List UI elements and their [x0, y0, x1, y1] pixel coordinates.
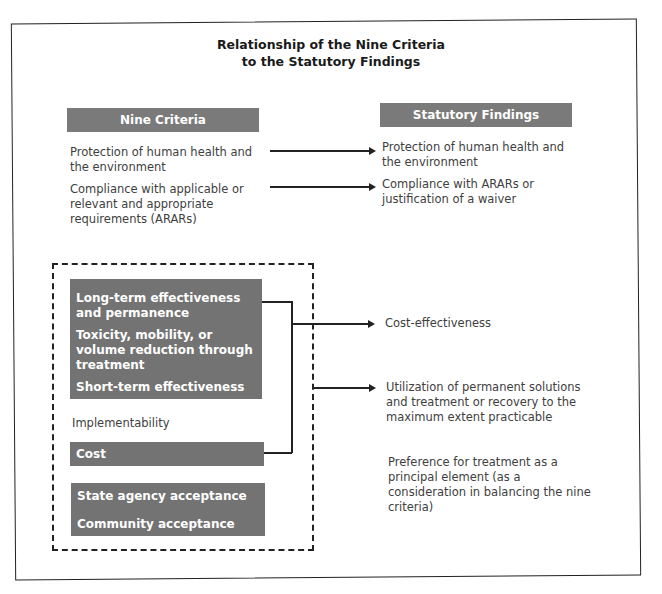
title-line-2: to the Statutory Findings [0, 53, 662, 70]
criterion-toxicity: Toxicity, mobility, or volume reduction … [70, 328, 262, 373]
criterion-implementability: Implementability [72, 416, 170, 431]
finding-protection: Protection of human health and the envir… [382, 140, 572, 170]
arrowhead-icon [369, 183, 376, 191]
statutory-findings-header: Statutory Findings [380, 103, 572, 127]
arrowhead-icon [369, 384, 376, 392]
criterion-cost: Cost [70, 442, 264, 466]
criterion-long-term: Long-term effectiveness and permanence [70, 291, 262, 321]
balancing-criteria-box: Long-term effectiveness and permanence T… [70, 279, 262, 399]
connector-bottom [264, 452, 292, 454]
modifying-criteria-box: State agency acceptance Community accept… [71, 483, 265, 536]
title-line-1: Relationship of the Nine Criteria [0, 36, 662, 53]
nine-criteria-header: Nine Criteria [67, 108, 259, 132]
finding-utilization: Utilization of permanent solutions and t… [386, 380, 586, 425]
finding-compliance: Compliance with ARARs or justification o… [382, 177, 562, 207]
arrow-line-cost-effectiveness [291, 323, 369, 325]
diagram-title: Relationship of the Nine Criteria to the… [0, 36, 662, 70]
criterion-community-acceptance: Community acceptance [71, 517, 265, 532]
criterion-short-term: Short-term effectiveness [70, 380, 262, 395]
connector-top [262, 301, 292, 303]
finding-cost-effectiveness: Cost-effectiveness [385, 316, 491, 331]
arrow-line-utilization [312, 387, 370, 389]
arrowhead-icon [368, 320, 375, 328]
finding-preference: Preference for treatment as a principal … [388, 455, 593, 515]
criterion-protection: Protection of human health and the envir… [70, 145, 260, 175]
criterion-compliance: Compliance with applicable or relevant a… [70, 182, 250, 227]
arrowhead-icon [369, 147, 376, 155]
arrow-line-protection [270, 150, 370, 152]
arrow-line-compliance [270, 186, 370, 188]
criterion-state-acceptance: State agency acceptance [71, 489, 265, 504]
cost-box: Cost [70, 442, 264, 466]
